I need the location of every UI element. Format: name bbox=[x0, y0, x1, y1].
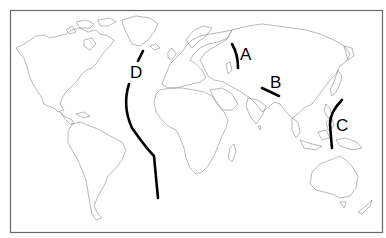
line-d-south bbox=[126, 84, 158, 198]
south-america-outline bbox=[68, 122, 126, 220]
british-isles-outline bbox=[168, 48, 176, 60]
tasmania-outline bbox=[340, 202, 346, 208]
central-america-outline bbox=[60, 112, 90, 124]
line-d-north bbox=[138, 51, 143, 61]
asia-outline bbox=[200, 24, 350, 118]
sri-lanka-outline bbox=[258, 126, 261, 130]
scandinavia-outline bbox=[186, 26, 212, 48]
line-a bbox=[232, 44, 238, 68]
north-america-outline bbox=[16, 28, 114, 112]
arabia-outline bbox=[210, 88, 238, 110]
world-map: A B C D bbox=[0, 0, 386, 238]
new-guinea-outline bbox=[336, 138, 362, 150]
southeast-asia-outline bbox=[292, 118, 334, 150]
label-d: D bbox=[130, 63, 142, 82]
arctic-islands-outline bbox=[66, 18, 116, 50]
madagascar-outline bbox=[228, 144, 236, 162]
label-a: A bbox=[240, 45, 252, 64]
iceland-outline bbox=[150, 44, 160, 50]
label-c: C bbox=[336, 116, 348, 135]
new-zealand-outline bbox=[358, 200, 372, 214]
caspian-sea-outline bbox=[226, 62, 232, 74]
label-b: B bbox=[270, 73, 281, 92]
greenland-outline bbox=[122, 16, 158, 46]
australia-outline bbox=[310, 156, 358, 198]
africa-outline bbox=[154, 88, 228, 174]
